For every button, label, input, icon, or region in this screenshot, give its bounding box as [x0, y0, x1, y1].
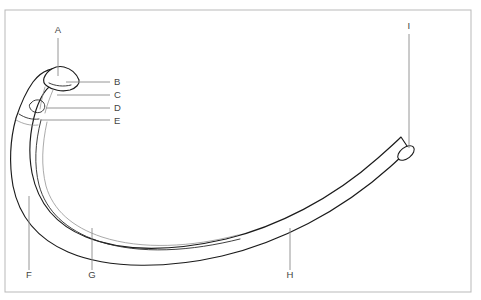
label-d: D — [114, 102, 121, 113]
rib-diagram-figure: A B C D E F G H I — [0, 0, 481, 300]
label-h: H — [286, 269, 293, 280]
label-g: G — [88, 269, 96, 280]
neck-line-lower — [45, 90, 53, 113]
label-a: A — [55, 24, 62, 35]
rib-bone-drawing — [11, 67, 417, 266]
label-b: B — [114, 76, 121, 87]
label-c: C — [114, 89, 121, 100]
rib-head-outline — [44, 67, 80, 91]
shaft-shading-line — [43, 122, 238, 245]
label-e: E — [114, 115, 121, 126]
rib-shaft-outline — [11, 69, 409, 265]
rib-diagram-canvas: A B C D E F G H I — [0, 0, 481, 300]
label-f: F — [26, 269, 32, 280]
leader-lines-group — [29, 34, 409, 270]
label-i: I — [408, 20, 411, 31]
